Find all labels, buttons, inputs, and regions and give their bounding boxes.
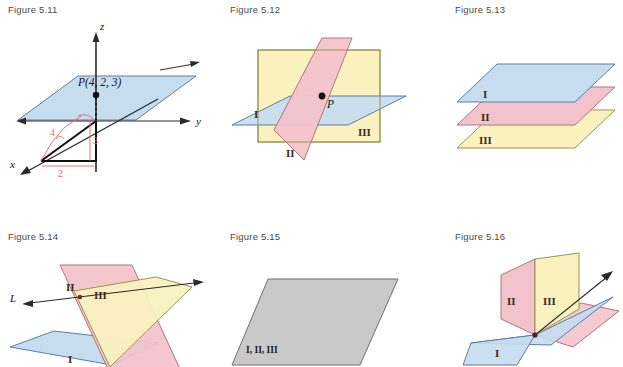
figure-5-14: Figure 5.14 L II III I — [8, 231, 58, 242]
figure-5-16-art: II III I — [455, 247, 623, 367]
figure-5-15-art: I, II, III — [230, 247, 420, 367]
red-measure-4 — [41, 116, 81, 161]
figure-5-12-art: P I II III — [230, 20, 430, 180]
point-P-label: P(4, 2, 3) — [77, 76, 122, 89]
figure-5-16: Figure 5.16 II III I — [455, 231, 505, 242]
plane-label-II: II — [286, 147, 295, 159]
axis-y-arrowhead — [180, 118, 191, 125]
plane-label-III: III — [543, 295, 556, 307]
measure-label-3: 3 — [93, 135, 98, 146]
figure-5-11-label: Figure 5.11 — [8, 4, 58, 15]
figure-5-13-art: I II III — [455, 20, 623, 180]
axis-x-label: x — [9, 158, 15, 170]
figure-5-15: Figure 5.15 I, II, III — [230, 231, 280, 242]
intersection-point — [78, 295, 82, 299]
axis-x-arrowhead — [20, 166, 31, 175]
axis-z-label: z — [99, 20, 105, 32]
measure-label-4: 4 — [50, 127, 55, 138]
figure-5-13: Figure 5.13 I II III — [455, 4, 505, 15]
plane-label-I: I — [495, 347, 499, 359]
intersection-point — [532, 332, 537, 337]
plane-edge-arrowhead — [190, 61, 200, 67]
axis-z-arrowhead — [93, 32, 100, 42]
plane-label-III: III — [358, 126, 371, 138]
point-P-marker — [319, 93, 326, 100]
figure-5-13-label: Figure 5.13 — [455, 4, 505, 15]
plane-label-II: II — [507, 295, 516, 307]
line-L-label: L — [9, 292, 16, 304]
figure-5-11: Figure 5.11 z y x — [8, 4, 58, 15]
plane-label-II: II — [66, 281, 75, 293]
plane-label-I: I — [68, 353, 72, 365]
figure-5-11-art: z y x — [8, 20, 208, 180]
plane-label-III: III — [94, 289, 107, 301]
figure-5-12-label: Figure 5.12 — [230, 4, 280, 15]
figure-5-14-label: Figure 5.14 — [8, 231, 58, 242]
figure-5-16-label: Figure 5.16 — [455, 231, 505, 242]
figure-5-12: Figure 5.12 P I II III — [230, 4, 280, 15]
figure-5-15-label: Figure 5.15 — [230, 231, 280, 242]
axis-y-label: y — [195, 115, 201, 127]
line-L-arrowhead-right — [193, 279, 204, 286]
intersection-arrowhead — [601, 271, 613, 281]
point-P-label: P — [326, 98, 334, 110]
plane-label-III: III — [479, 134, 492, 146]
plane-label-I: I — [254, 108, 258, 120]
plane-label-II: II — [481, 111, 490, 123]
point-P-marker — [93, 92, 99, 98]
measure-label-2: 2 — [58, 168, 63, 179]
red-measure-4-tick — [56, 136, 64, 139]
line-L-arrowhead-left — [22, 300, 33, 307]
plane-label-I: I — [483, 88, 487, 100]
plane-label-I-II-III: I, II, III — [246, 345, 278, 355]
plane-edge-arrow-line — [160, 64, 194, 70]
figure-5-14-art: L II III I — [8, 247, 218, 367]
